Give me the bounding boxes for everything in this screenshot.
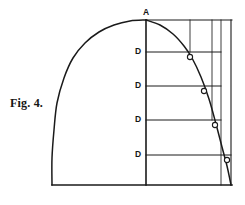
ordinate-label-d-4: D <box>135 150 141 159</box>
curve-right-branch <box>146 20 231 185</box>
ordinate-label-d-2: D <box>135 81 141 90</box>
figure-caption: Fig. 4. <box>10 96 43 111</box>
point-marker-o-4 <box>224 157 229 162</box>
curve-left-branch <box>52 20 146 185</box>
apex-label-a: A <box>143 8 149 17</box>
figure-container: Fig. 4. A D D D D <box>0 0 245 205</box>
point-marker-o-2 <box>201 88 206 93</box>
point-marker-o-1 <box>187 54 192 59</box>
ordinate-label-d-1: D <box>135 47 141 56</box>
ordinate-label-d-3: D <box>135 115 141 124</box>
point-marker-o-3 <box>212 122 217 127</box>
